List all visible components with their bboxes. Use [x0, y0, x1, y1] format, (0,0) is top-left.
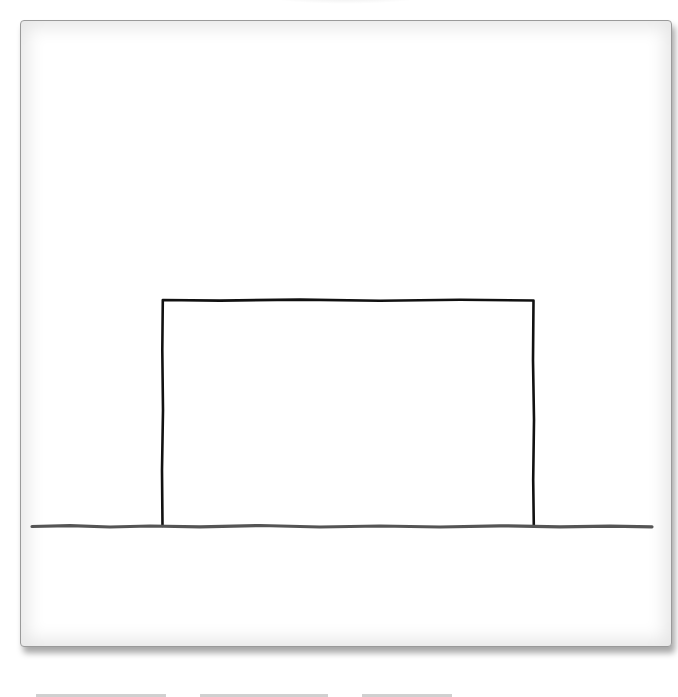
rectangle-shape — [162, 300, 534, 526]
diagram-canvas — [0, 0, 678, 697]
ground-line — [32, 526, 652, 528]
